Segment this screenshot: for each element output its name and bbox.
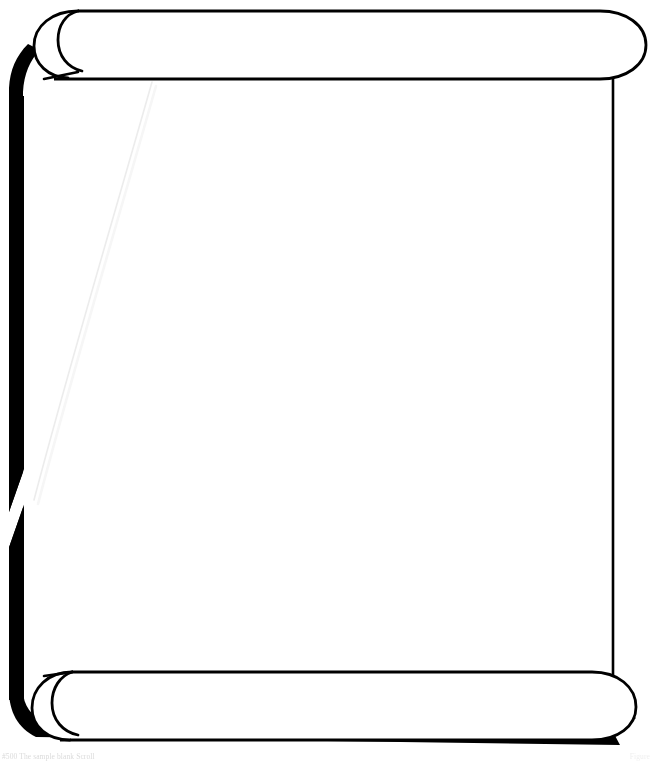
scroll-sheet xyxy=(45,78,613,678)
bottom-roll-body xyxy=(60,672,636,740)
caption-left-text: #500 The sample blank Scroll xyxy=(2,752,95,761)
top-roll-body xyxy=(54,11,646,79)
scroll-illustration xyxy=(0,0,654,767)
left-shadow-slab xyxy=(9,96,24,700)
bottom-roll xyxy=(32,672,636,740)
caption-right-text: Figure xyxy=(630,752,650,761)
figure-caption: #500 The sample blank Scroll Figure xyxy=(0,750,654,767)
top-roll xyxy=(34,11,646,79)
sheet-face xyxy=(45,80,613,676)
scroll-figure: Blank scroll with curled top and bottom … xyxy=(0,0,654,767)
